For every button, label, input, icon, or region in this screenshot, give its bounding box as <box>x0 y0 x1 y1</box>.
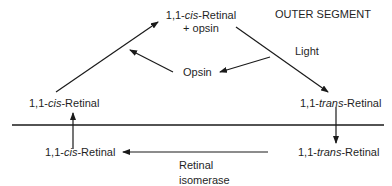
isomer: cis <box>64 146 77 158</box>
node-cis-retinal-opsin: 1,1-cis-Retinal + opsin <box>162 9 240 35</box>
prefix: 1,1- <box>29 97 48 109</box>
node-trans-retinal-lower: 1,1-trans-Retinal <box>298 146 379 159</box>
node-top-suffix: -Retinal <box>198 9 236 21</box>
edge-label-light: Light <box>295 45 319 58</box>
arrow-opsin-join <box>130 50 173 72</box>
node-top-line1: 1,1-cis-Retinal <box>162 9 240 22</box>
isomer: trans <box>319 97 343 109</box>
arrow-rhodopsin-to-trans <box>236 27 328 92</box>
suffix: -Retinal <box>61 97 99 109</box>
enzyme-line1: Retinal <box>179 158 230 173</box>
prefix: 1,1- <box>45 146 64 158</box>
outer-segment-label: OUTER SEGMENT <box>275 8 371 21</box>
enzyme-line2: isomerase <box>179 173 230 186</box>
edge-label-retinal-isomerase: Retinal isomerase <box>179 158 230 186</box>
retinal-cycle-diagram: OUTER SEGMENT 1,1-cis-Retinal + opsin Op… <box>0 0 392 186</box>
node-cis-retinal-upper: 1,1-cis-Retinal <box>29 97 99 110</box>
node-cis-retinal-lower: 1,1-cis-Retinal <box>45 146 115 159</box>
isomer: trans <box>317 146 341 158</box>
node-opsin: Opsin <box>183 66 212 79</box>
isomer: cis <box>48 97 61 109</box>
node-top-prefix: 1,1- <box>166 9 185 21</box>
prefix: 1,1- <box>298 146 317 158</box>
suffix: -Retinal <box>343 97 381 109</box>
node-top-isomer: cis <box>185 9 198 21</box>
suffix: -Retinal <box>77 146 115 158</box>
prefix: 1,1- <box>300 97 319 109</box>
arrow-opsin-release <box>220 57 270 72</box>
suffix: -Retinal <box>341 146 379 158</box>
node-trans-retinal-upper: 1,1-trans-Retinal <box>300 97 381 110</box>
node-top-line2: + opsin <box>162 22 240 35</box>
